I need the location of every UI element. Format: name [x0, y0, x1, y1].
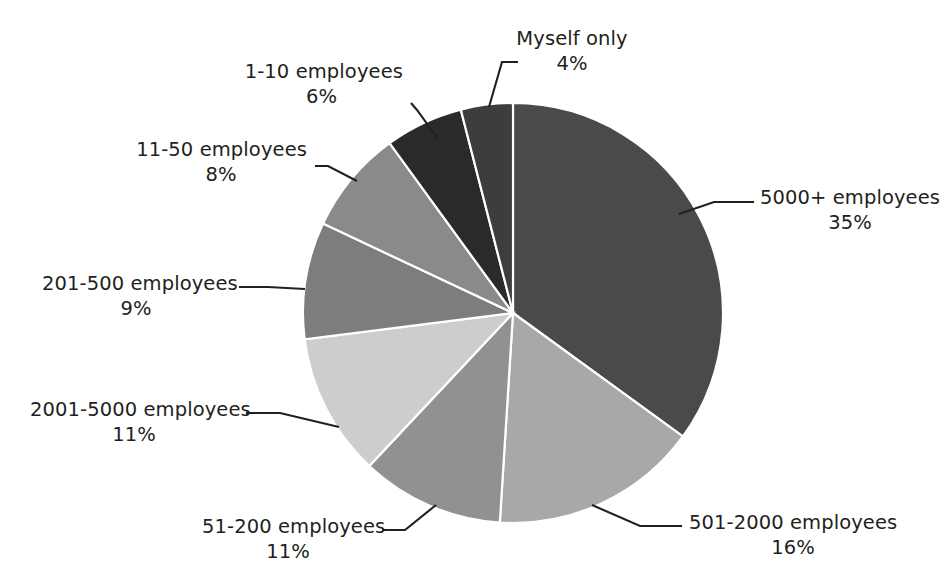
pie-label-name-51-200: 51-200 employees	[202, 515, 374, 540]
leader-line-501-2000	[592, 505, 682, 526]
pie-label-percent-2001-5000: 11%	[30, 423, 238, 448]
pie-label-2001-5000: 2001-5000 employees 11%	[30, 398, 238, 448]
leader-line-11-50	[315, 166, 357, 181]
pie-label-name-5000-plus: 5000+ employees	[760, 186, 940, 211]
pie-label-percent-11-50: 8%	[135, 163, 307, 188]
pie-label-percent-51-200: 11%	[202, 540, 374, 565]
pie-label-5000-plus: 5000+ employees 35%	[760, 186, 940, 236]
pie-label-name-myself-only: Myself only	[510, 27, 634, 52]
pie-label-1-10: 1-10 employees 6%	[240, 60, 403, 110]
pie-label-percent-201-500: 9%	[42, 297, 230, 322]
leader-line-201-500	[239, 287, 305, 289]
leader-line-2001-5000	[246, 413, 339, 427]
pie-label-percent-5000-plus: 35%	[760, 211, 940, 236]
pie-label-percent-myself-only: 4%	[510, 52, 634, 77]
pie-label-percent-501-2000: 16%	[689, 536, 897, 561]
pie-label-201-500: 201-500 employees 9%	[42, 272, 230, 322]
pie-label-name-2001-5000: 2001-5000 employees	[30, 398, 238, 423]
pie-label-501-2000: 501-2000 employees 16%	[689, 511, 897, 561]
pie-label-percent-1-10: 6%	[240, 85, 403, 110]
pie-label-myself-only: Myself only 4%	[510, 27, 634, 77]
pie-slices	[303, 103, 723, 523]
pie-label-name-11-50: 11-50 employees	[135, 138, 307, 163]
pie-label-name-1-10: 1-10 employees	[240, 60, 403, 85]
pie-label-51-200: 51-200 employees 11%	[202, 515, 374, 565]
leader-line-51-200	[382, 505, 436, 530]
pie-label-11-50: 11-50 employees 8%	[135, 138, 307, 188]
pie-label-name-501-2000: 501-2000 employees	[689, 511, 897, 536]
pie-label-name-201-500: 201-500 employees	[42, 272, 230, 297]
